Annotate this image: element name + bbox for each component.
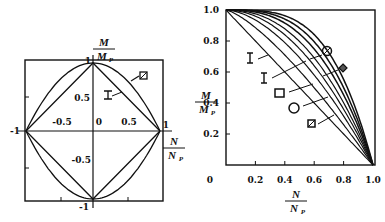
y-tick-label: 0.2 [203,129,219,139]
leader-line [258,55,268,59]
x-axis-label-numerator: N [169,135,179,147]
y-tick-label: 0.5 [74,93,90,103]
x-tick-label: 1.0 [365,175,381,185]
leader-line [318,115,334,124]
leader-line [289,84,313,92]
figure: -1-0.500.5110.5-0.5-1MMPNNP 00.20.40.60.… [0,0,385,222]
i-section-strong-icon [247,53,253,63]
square-box-icon [275,89,284,97]
right-chart: 00.20.40.60.81.00.20.40.60.81.0MMPNNP [195,5,381,216]
i-section-icon [104,91,112,99]
hatched-diamond-icon [339,64,347,72]
y-tick-label: 0.6 [203,67,219,77]
y-tick-label: -0.5 [72,155,91,165]
x-tick-label: -1 [10,126,20,136]
y-tick-label: -1 [79,202,89,212]
y-tick-label: 1 [85,56,91,66]
hatch-line [140,72,147,79]
x-tick-label: -0.5 [52,117,71,127]
i-section-weak-icon [261,73,267,83]
x-axis-label-denominator: N [167,149,177,161]
x-axis-label-subscript: P [301,208,306,216]
y-tick-label: 1.0 [203,5,219,15]
circular-tube-icon [289,103,299,113]
marker-i-section [104,91,112,99]
y-axis-label-numerator: M [98,36,110,48]
leader-line [112,92,122,96]
y-axis-label-subscript: P [109,56,114,64]
y-axis-label-denominator: M [198,103,210,115]
x-axis-label-numerator: N [291,188,301,200]
hatch-line [308,120,315,127]
x-tick-label: 0.5 [121,117,137,127]
x-tick-label: 0.4 [277,175,293,185]
x-tick-label: 0 [96,117,102,127]
x-tick-label: 0.8 [336,175,352,185]
y-axis-label-denominator: M [96,50,108,62]
x-axis-label-subscript: P [179,155,184,163]
leader-line [131,76,139,81]
y-tick-label: 0.8 [203,36,219,46]
y-axis-label-subscript: P [211,109,216,117]
x-axis-label-denominator: N [289,202,299,214]
x-tick-label: 1 [163,120,169,130]
y-axis-label-numerator: M [200,89,212,101]
x-tick-label: 0.6 [306,175,322,185]
left-chart: -1-0.500.5110.5-0.5-1MMPNNP [10,36,185,212]
x-tick-label: 0 [207,175,213,185]
x-tick-label: 0.2 [248,175,264,185]
